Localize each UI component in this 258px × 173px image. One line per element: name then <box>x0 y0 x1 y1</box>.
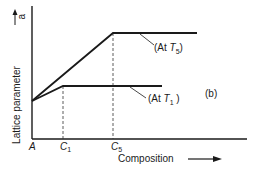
t5-leader <box>140 34 154 45</box>
x-axis-arrow-icon <box>213 156 222 162</box>
lattice-parameter-diagram: a Lattice parameter (At T5) (At T1 ) (b)… <box>0 0 258 173</box>
y-axis-symbol: a <box>16 14 27 20</box>
origin-label: A <box>28 141 36 152</box>
y-axis-label: Lattice parameter <box>11 65 22 143</box>
c1-label: C1 <box>60 141 71 153</box>
x-axis-label: Composition <box>118 153 174 164</box>
panel-label: (b) <box>205 88 217 99</box>
c5-label: C5 <box>111 141 122 153</box>
curve-t1 <box>32 86 162 101</box>
t5-label: (At T5) <box>154 42 183 55</box>
t1-label: (At T1 ) <box>148 93 180 106</box>
t1-leader <box>130 87 146 98</box>
